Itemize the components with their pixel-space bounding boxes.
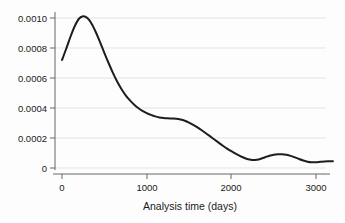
x-axis-title: Analysis time (days) [143, 200, 237, 212]
x-tick-label-1000: 1000 [136, 182, 157, 193]
y-tick-label-0: 0 [42, 163, 47, 174]
x-tick-label-2000: 2000 [220, 182, 241, 193]
chart-background [0, 0, 345, 223]
chart-canvas: 0.0010 0.0008 0.0006 0.0004 0.0002 0 0 1… [0, 0, 345, 223]
y-tick-label-0.0006: 0.0006 [18, 73, 47, 84]
y-tick-label-0.0004: 0.0004 [18, 103, 47, 114]
y-tick-label-0.0010: 0.0010 [18, 13, 47, 24]
x-tick-label-3000: 3000 [305, 182, 326, 193]
y-tick-label-0.0008: 0.0008 [18, 43, 47, 54]
smoothed-hazard-chart: 0.0010 0.0008 0.0006 0.0004 0.0002 0 0 1… [0, 0, 345, 223]
x-tick-label-0: 0 [59, 182, 64, 193]
y-tick-label-0.0002: 0.0002 [18, 133, 47, 144]
